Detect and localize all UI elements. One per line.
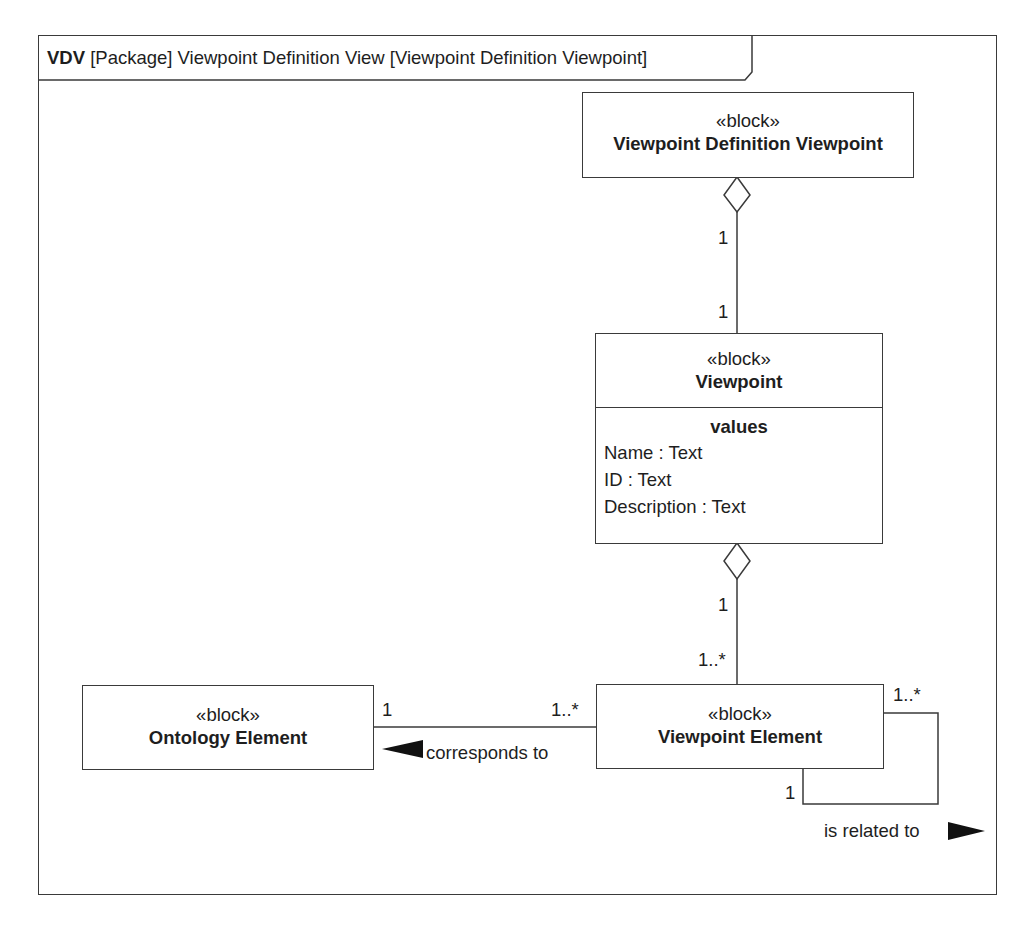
multiplicity-viewpoint-end: 1 — [718, 302, 728, 322]
block-viewpoint-element[interactable]: «block» Viewpoint Element — [596, 684, 884, 769]
multiplicity-self-start: 1..* — [893, 685, 921, 705]
association-label-corresponds-to: corresponds to — [426, 743, 548, 763]
aggregation-diamond-icon — [724, 177, 750, 212]
multiplicity-element-end: 1..* — [551, 700, 579, 720]
stereotype-label: «block» — [597, 703, 883, 725]
block-name: Ontology Element — [83, 726, 373, 750]
block-name: Viewpoint Element — [597, 725, 883, 749]
block-name: Viewpoint Definition Viewpoint — [583, 132, 913, 156]
multiplicity-viewpoint-element-part: 1..* — [698, 650, 726, 670]
property-id: ID : Text — [596, 466, 882, 493]
aggregation-diamond-icon — [724, 543, 750, 579]
stereotype-label: «block» — [596, 348, 882, 370]
values-compartment: values Name : Text ID : Text Description… — [596, 407, 882, 520]
block-viewpoint-definition-viewpoint[interactable]: «block» Viewpoint Definition Viewpoint — [582, 92, 914, 178]
direction-arrow-right-icon — [948, 822, 985, 840]
multiplicity-viewpoint-whole: 1 — [718, 595, 728, 615]
stereotype-label: «block» — [83, 704, 373, 726]
multiplicity-vdv-end: 1 — [718, 228, 728, 248]
compartment-title: values — [596, 415, 882, 439]
block-ontology-element[interactable]: «block» Ontology Element — [82, 685, 374, 770]
association-label-is-related-to: is related to — [824, 821, 920, 841]
stereotype-label: «block» — [583, 110, 913, 132]
frame-tab-border — [38, 35, 752, 80]
property-description: Description : Text — [596, 493, 882, 520]
block-name: Viewpoint — [596, 370, 882, 394]
multiplicity-ontology-end: 1 — [382, 700, 392, 720]
block-viewpoint[interactable]: «block» Viewpoint values Name : Text ID … — [595, 333, 883, 544]
multiplicity-self-end: 1 — [785, 783, 795, 803]
property-name: Name : Text — [596, 439, 882, 466]
direction-arrow-left-icon — [382, 740, 423, 758]
